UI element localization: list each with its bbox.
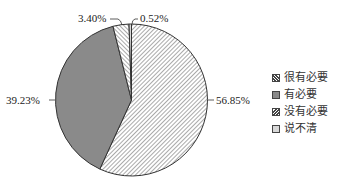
leader-line [110,19,122,25]
light-swatch-icon [272,125,280,133]
legend-item-unclear: 说不清 [272,120,328,137]
legend-label: 说不清 [284,123,317,134]
legend-label: 没有必要 [284,106,328,117]
leader-line [132,19,138,24]
legend-label: 有必要 [284,89,317,100]
hatch-swatch-icon [272,74,280,82]
slice-label-very-necessary: 56.85% [216,94,250,106]
slice-label-necessary: 39.23% [6,94,40,106]
solid-swatch-icon [272,91,280,99]
legend-item-necessary: 有必要 [272,86,328,103]
legend-item-not-necessary: 没有必要 [272,103,328,120]
slice-label-unclear: 0.52% [140,12,168,24]
legend-item-very-necessary: 很有必要 [272,69,328,86]
hatch-swatch-icon [272,108,280,116]
pie-slices [56,24,208,176]
legend-label: 很有必要 [284,72,328,83]
chart-legend: 很有必要 有必要 没有必要 说不清 [272,69,328,137]
slice-label-not-necessary: 3.40% [78,12,106,24]
